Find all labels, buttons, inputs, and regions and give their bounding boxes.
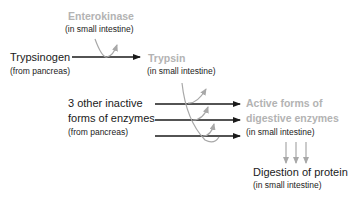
digestion-location: (in small intestine) bbox=[253, 181, 322, 190]
active-enzymes-location: (in small intestine) bbox=[246, 128, 315, 137]
digestion-label: Digestion of protein bbox=[253, 167, 348, 178]
enterokinase-location: (in small intestine) bbox=[65, 25, 134, 34]
digestion-arrows bbox=[286, 142, 306, 163]
inactive-enzymes-line1: 3 other inactive bbox=[68, 98, 143, 109]
active-enzymes-line1: Active forms of bbox=[246, 98, 322, 109]
trypsin-catalysis-arrows bbox=[182, 83, 219, 142]
trypsinogen-location: (from pancreas) bbox=[10, 67, 70, 76]
trypsin-label: Trypsin bbox=[148, 53, 185, 64]
enterokinase-catalysis-arrow bbox=[95, 39, 117, 57]
trypsinogen-label: Trypsinogen bbox=[10, 52, 70, 63]
trypsin-location: (in small intestine) bbox=[147, 67, 216, 76]
inactive-enzymes-location: (from pancreas) bbox=[68, 128, 128, 137]
active-enzymes-line2: digestive enzymes bbox=[246, 113, 339, 124]
enterokinase-label: Enterokinase bbox=[68, 11, 134, 22]
inactive-enzymes-line2: forms of enzymes bbox=[68, 113, 155, 124]
